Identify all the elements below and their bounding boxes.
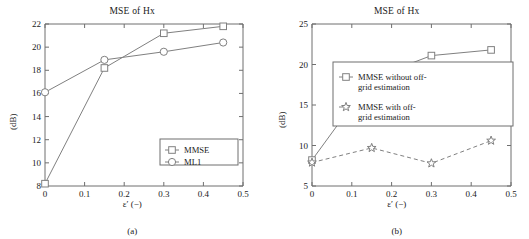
y-tick-label: 8	[37, 181, 42, 191]
panel-a-subcaption: (a)	[0, 226, 265, 236]
panel-b-subcaption: (b)	[265, 226, 529, 236]
legend-label: ML1	[184, 157, 201, 167]
x-tick-label: 0.2	[119, 189, 130, 199]
legend: MMSE without off-grid estimationMMSE wit…	[333, 62, 513, 126]
x-tick-label: 0	[43, 189, 48, 199]
y-tick-label: 16	[32, 88, 42, 98]
x-tick-label: 0.3	[158, 189, 170, 199]
y-tick-label: 14	[32, 112, 42, 122]
x-tick-label: 0.5	[505, 189, 517, 199]
x-tick-label: 0.5	[237, 189, 249, 199]
x-tick-label: 0.3	[425, 189, 437, 199]
figure-two-panel-mse: MSE of Hx (dB) 00.10.20.30.40.5810121416…	[0, 0, 529, 239]
x-tick-label: 0.2	[385, 189, 396, 199]
legend-label: grid estimation	[358, 112, 410, 122]
y-tick-label: 10	[32, 158, 42, 168]
legend-label: MMSE with off-	[358, 102, 416, 112]
y-tick-label: 20	[299, 60, 309, 70]
panel-b: MSE of Hx (dB) 00.10.20.30.40.5510152025…	[265, 0, 529, 239]
x-tick-label: 0	[309, 189, 314, 199]
x-tick-label: 0.4	[465, 189, 477, 199]
legend-label: MMSE	[184, 145, 209, 155]
y-tick-label: 5	[303, 181, 308, 191]
y-tick-label: 20	[32, 42, 42, 52]
legend-label: MMSE without off-	[358, 72, 427, 82]
panel-b-x-axis-label: ε′ (−)	[265, 199, 529, 209]
legend: MMSEML1	[160, 139, 238, 167]
y-tick-label: 10	[299, 141, 309, 151]
y-tick-label: 12	[32, 135, 41, 145]
series-2	[41, 39, 226, 96]
x-tick-label: 0.1	[79, 189, 90, 199]
y-tick-label: 22	[32, 19, 41, 29]
panel-a-x-axis-label: ε′ (−)	[0, 199, 265, 209]
y-tick-label: 18	[32, 65, 42, 75]
legend-label: grid estimation	[358, 82, 410, 92]
y-tick-label: 25	[299, 19, 309, 29]
x-tick-label: 0.4	[198, 189, 210, 199]
panel-a: MSE of Hx (dB) 00.10.20.30.40.5810121416…	[0, 0, 265, 239]
x-tick-label: 0.1	[346, 189, 357, 199]
series-2	[307, 136, 495, 167]
y-tick-label: 15	[299, 100, 309, 110]
